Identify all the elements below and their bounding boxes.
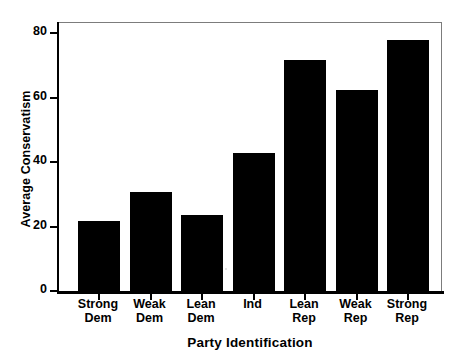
- x-axis-title: Party Identification: [57, 335, 443, 350]
- bar-lean-rep: [284, 60, 326, 292]
- bar-strong-dem: [78, 221, 120, 292]
- y-tick-40: 40: [50, 161, 58, 163]
- y-axis-title: Average Conservatism: [19, 59, 33, 259]
- y-tick-80: 80: [50, 32, 58, 34]
- scan-speck: [225, 268, 227, 270]
- bar-ind: [233, 153, 275, 292]
- y-tick-label-80: 80: [33, 24, 47, 38]
- bar-weak-dem: [130, 192, 172, 292]
- y-tick-label-0: 0: [40, 282, 47, 296]
- y-tick-60: 60: [50, 97, 58, 99]
- bar-lean-dem: [181, 215, 223, 292]
- y-tick-label-20: 20: [33, 218, 47, 232]
- y-tick-label-60: 60: [33, 89, 47, 103]
- bar-strong-rep: [387, 40, 429, 292]
- plot-area: 0 20 40 60 80: [57, 22, 442, 293]
- y-tick-0: 0: [50, 290, 58, 292]
- y-tick-label-40: 40: [33, 153, 47, 167]
- bar-chart: Average Conservatism 0 20 40 60 80: [0, 0, 464, 360]
- bar-weak-rep: [336, 90, 378, 292]
- y-tick-20: 20: [50, 226, 58, 228]
- x-category-label-strong-rep: Strong Rep: [375, 297, 439, 325]
- y-axis-line: [57, 22, 60, 295]
